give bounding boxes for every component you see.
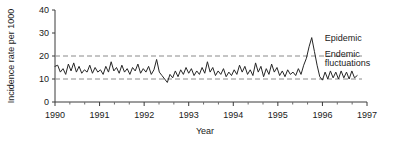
x-tick-label: 1995 — [268, 110, 288, 120]
y-tick-label: 30 — [39, 28, 49, 38]
x-axis-title: Year — [196, 126, 214, 136]
x-axis-tick-labels: 19901991199219931994199519961997 — [45, 110, 377, 120]
x-tick-label: 1992 — [134, 110, 154, 120]
x-tick-label: 1993 — [179, 110, 199, 120]
x-tick-label: 1996 — [312, 110, 332, 120]
epidemic-incidence-line-chart: 010203040 199019911992199319941995199619… — [0, 0, 399, 151]
incidence-rate-line — [55, 38, 357, 83]
y-axis-tick-labels: 010203040 — [39, 5, 49, 107]
y-tick-label: 0 — [44, 97, 49, 107]
chart-figure: 010203040 199019911992199319941995199619… — [0, 0, 399, 151]
x-axis-ticks — [55, 102, 367, 106]
x-tick-label: 1991 — [90, 110, 110, 120]
annotations-group: EpidemicEndemicfluctuations — [325, 33, 371, 68]
x-tick-label: 1997 — [357, 110, 377, 120]
y-tick-label: 10 — [39, 74, 49, 84]
y-axis-title: Incidence rate per 1000 — [6, 9, 16, 104]
endemic-label-line2: fluctuations — [325, 58, 371, 68]
y-tick-label: 40 — [39, 5, 49, 15]
x-tick-label: 1994 — [223, 110, 243, 120]
y-tick-label: 20 — [39, 51, 49, 61]
epidemic-label: Epidemic — [325, 33, 363, 43]
x-tick-label: 1990 — [45, 110, 65, 120]
